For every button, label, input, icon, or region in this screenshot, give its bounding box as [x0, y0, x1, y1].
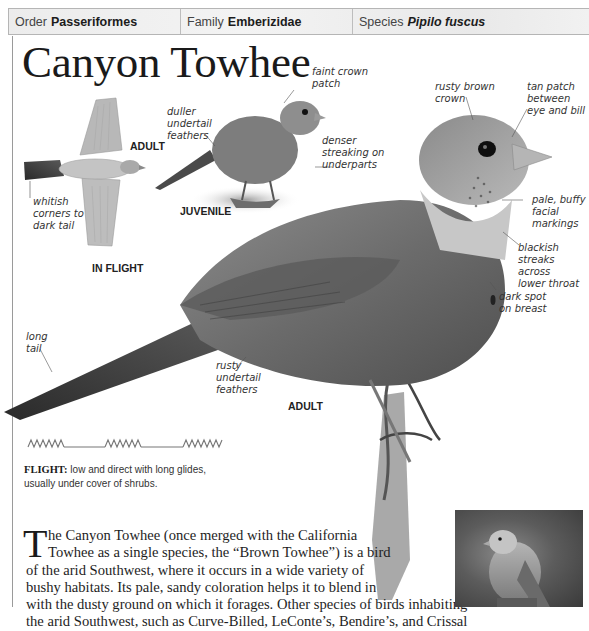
adult-caption: ADULT — [288, 400, 323, 412]
annotation-denser-streaking: denser streaking on underparts — [322, 135, 384, 171]
flight-description: FLIGHT: low and direct with long glides,… — [24, 463, 254, 491]
annotation-rusty-undertail: rusty undertail feathers — [216, 360, 261, 396]
annotation-rusty-crown: rusty brown crown — [435, 81, 495, 105]
flight-description-line1: low and direct with long glides, — [70, 464, 206, 475]
flight-description-line2: usually under cover of shrubs. — [24, 478, 157, 489]
in-flight-adult-label: ADULT — [130, 140, 165, 152]
annotation-long-tail: long tail — [26, 331, 48, 355]
annotation-duller-undertail: duller undertail feathers — [167, 106, 212, 142]
flight-pattern-icon — [28, 440, 222, 447]
towhee-photo — [455, 510, 583, 607]
annotation-tan-patch: tan patch between eye and bill — [527, 81, 585, 117]
annotation-breast-spot: dark spot on breast — [499, 291, 547, 315]
annotation-facial-markings: pale, buffy facial markings — [532, 194, 586, 230]
flight-label: FLIGHT: — [24, 464, 68, 475]
annotation-faint-crown: faint crown patch — [312, 66, 368, 90]
juvenile-caption: JUVENILE — [180, 205, 231, 217]
annotation-whitish-corners: whitish corners to dark tail — [33, 196, 84, 232]
photo-bird-icon — [455, 510, 583, 607]
annotation-throat-streaks: blackish streaks across lower throat — [518, 242, 588, 290]
in-flight-caption: IN FLIGHT — [92, 262, 143, 274]
body-line-6: the arid Southwest, such as Curve-Billed… — [26, 613, 586, 630]
